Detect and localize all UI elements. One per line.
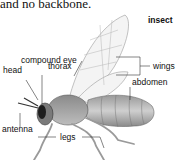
label-antenna: antenna	[2, 125, 33, 134]
wings-shape	[70, 15, 129, 104]
label-thorax: thorax	[48, 62, 72, 71]
label-head: head	[3, 66, 22, 75]
label-wings: wings	[153, 62, 175, 71]
label-legs: legs	[60, 133, 76, 142]
thorax-shape	[48, 95, 88, 125]
compound-eye-shape	[38, 105, 46, 119]
label-abdomen: abdomen	[132, 78, 167, 87]
